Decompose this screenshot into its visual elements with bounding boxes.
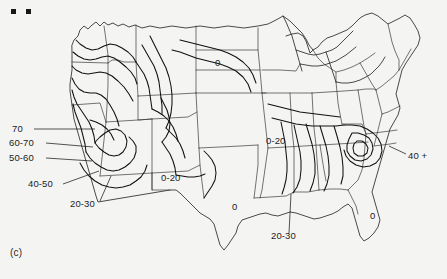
contour-label-20-30-south: 20-30 — [271, 230, 296, 241]
registration-mark-icon — [11, 9, 16, 14]
registration-mark-icon — [26, 9, 31, 14]
figure-caption: (c) — [10, 247, 22, 258]
registration-marks — [11, 9, 31, 14]
state-boundaries — [72, 24, 411, 214]
contour-label-70: 70 — [12, 123, 23, 134]
contour-label-50-60: 50-60 — [9, 152, 34, 163]
contour-label-0-20-east: 0-20 — [266, 135, 285, 146]
contour-label-0-plains: 0 — [215, 57, 220, 68]
contour-label-40-50: 40-50 — [28, 178, 53, 189]
contour-label-60-70: 60-70 — [9, 137, 34, 148]
figure-container: 70 60-70 50-60 40-50 20-30 0-20 0 0 0-20… — [0, 0, 447, 279]
contour-label-0-florida: 0 — [370, 210, 375, 221]
contour-label-20-30-west: 20-30 — [70, 198, 95, 209]
us-contour-map — [0, 0, 447, 279]
contour-label-0-20-southwest: 0-20 — [161, 172, 180, 183]
contour-label-0-texas: 0 — [232, 201, 237, 212]
contour-label-40-plus: 40 + — [408, 150, 427, 161]
label-leader-lines — [34, 129, 406, 233]
